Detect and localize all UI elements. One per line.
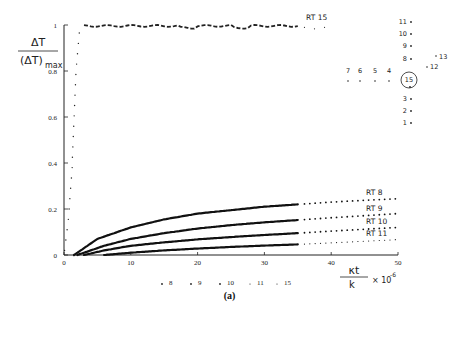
x-tick-label: 50 [395,259,403,267]
sensor-dot [410,98,412,100]
legend-label: 15 [284,279,292,287]
sensor-label: 7 [346,67,350,75]
sensor-label: 5 [373,67,377,75]
x-axis-label-denominator: k [349,279,355,290]
sensor-dot [347,80,349,82]
figure-caption: (a) [0,290,459,301]
sensor-dot [410,45,412,47]
sensor-dot [410,110,412,112]
sensor-label: 10 [399,30,407,38]
y-tick-label: 0 [54,252,58,260]
legend-marker [249,283,250,284]
x-axis-label-exponent: -6 [390,271,396,278]
sensor-label: 13 [439,53,447,61]
y-tick-label: 0.4 [48,160,57,168]
sensor-label: 8 [403,55,407,63]
x-axis-label-numerator: κt [349,264,360,277]
legend-label: 9 [198,279,202,287]
series-group [64,25,396,255]
y-axis-label-subscript: max [45,61,63,70]
series-rt10 [84,227,396,255]
series-rt15 [64,25,325,251]
series-label: RT 8 [366,188,383,197]
legend-marker [161,283,163,285]
sensor-dot [435,55,437,57]
legend-marker [276,283,277,284]
sensor-label: 6 [358,67,362,75]
sensor-label: 4 [387,67,391,75]
legend-label: 8 [169,279,173,287]
sensor-label: 11 [399,18,407,26]
series-label: RT 9 [366,204,383,213]
axes: 0102030405000.20.40.60.81 [48,22,402,268]
sensor-dot [388,80,390,82]
legend-marker [219,283,221,285]
sensor-dot [359,80,361,82]
series-label: RT 10 [366,217,387,226]
sensor-dot [410,21,412,23]
sensor-dot [410,33,412,35]
x-tick-label: 40 [328,259,336,267]
series-label: RT 15 [306,13,327,22]
sensor-dot [410,122,412,124]
y-tick-label: 1 [54,22,58,30]
sensor-label: 1 [403,119,407,127]
y-tick-label: 0.6 [48,114,57,122]
y-tick-label: 0.2 [48,206,57,214]
bottom-legend: 89101115 [161,279,291,287]
sensor-label: 12 [430,63,438,71]
y-axis-label-denominator: (ΔT) [20,54,43,67]
sensor-label: 9 [403,42,407,50]
sensor-label: 3 [403,95,407,103]
sensor-dot [410,58,412,60]
legend-marker [190,283,192,285]
y-axis-label-numerator: ΔT [31,36,46,49]
x-tick-label: 20 [194,259,202,267]
sensor-dot [374,80,376,82]
sensor-label: 2 [403,107,407,115]
legend-label: 10 [227,279,235,287]
x-tick-label: 30 [261,259,269,267]
circled-sensor-label: 15 [405,76,413,84]
x-axis-label-multiplier: × 10 [372,276,391,285]
series-label: RT 11 [366,229,387,238]
series-rt11 [104,239,396,255]
x-tick-label: 0 [62,259,66,267]
legend-label: 11 [257,279,264,287]
sensor-layout-inset: 1110983217654151213 [346,18,447,127]
x-tick-label: 10 [127,259,135,267]
sensor-dot [426,66,428,68]
series-rt9 [77,213,396,255]
